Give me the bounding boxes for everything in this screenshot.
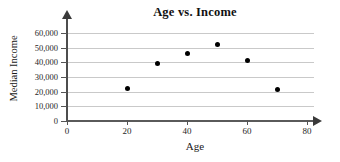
x-axis-tick	[67, 120, 68, 125]
y-axis-arrow-icon	[62, 10, 72, 19]
x-axis-line	[66, 120, 314, 122]
x-axis-tick-label: 80	[292, 126, 322, 136]
chart-figure: Age vs. Income 010,00020,00030,00040,000…	[0, 0, 340, 162]
x-axis-tick	[127, 120, 128, 125]
x-axis-tick	[307, 120, 308, 125]
gridline	[67, 48, 314, 49]
y-axis-tick	[61, 62, 67, 63]
y-axis-tick-label: 50,000	[35, 43, 58, 53]
y-axis-tick	[61, 48, 67, 49]
gridline	[67, 77, 314, 78]
x-axis-tick	[247, 120, 248, 125]
data-point	[245, 58, 250, 63]
y-axis-tick-label: 20,000	[35, 87, 58, 97]
y-axis-tick	[61, 92, 67, 93]
x-axis-arrow-icon	[313, 116, 322, 126]
gridline	[67, 62, 314, 63]
x-axis-tick-label: 40	[172, 126, 202, 136]
y-axis-tick-label: 10,000	[35, 101, 58, 111]
data-point	[215, 42, 220, 47]
gridline	[67, 33, 314, 34]
y-axis-tick-label: 40,000	[35, 57, 58, 67]
x-axis-tick	[187, 120, 188, 125]
data-point	[125, 86, 130, 91]
gridline	[67, 106, 314, 107]
y-axis-tick	[61, 33, 67, 34]
y-axis-tick	[61, 77, 67, 78]
data-point	[155, 61, 160, 66]
x-axis-title: Age	[140, 140, 250, 152]
data-point	[185, 51, 190, 56]
data-point	[275, 87, 280, 92]
y-axis-tick-label: 60,000	[35, 28, 58, 38]
y-axis-tick	[61, 106, 67, 107]
y-axis-tick-label: 0	[54, 116, 58, 126]
x-axis-tick-label: 60	[232, 126, 262, 136]
x-axis-tick-label: 0	[52, 126, 82, 136]
chart-title: Age vs. Income	[120, 5, 270, 20]
x-axis-tick-label: 20	[112, 126, 142, 136]
y-axis-tick-label: 30,000	[35, 72, 58, 82]
y-axis-title: Median Income	[8, 29, 19, 109]
